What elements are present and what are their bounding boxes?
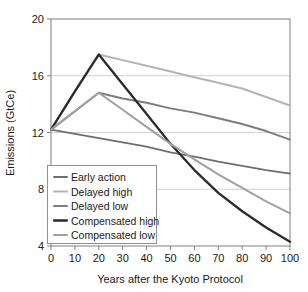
emissions-line-chart: 48121620 0102030405060708090100 Emission… (0, 0, 308, 292)
x-tick-label: 80 (236, 252, 248, 264)
legend-label-delayed-low: Delayed low (71, 200, 129, 212)
x-tick-label: 70 (212, 252, 224, 264)
chart-figure: 48121620 0102030405060708090100 Emission… (0, 0, 308, 292)
x-tick-label: 20 (93, 252, 105, 264)
chart-background (0, 0, 308, 292)
x-tick-label: 0 (48, 252, 54, 264)
y-tick-label: 20 (32, 13, 44, 25)
x-tick-label: 50 (164, 252, 176, 264)
legend-label-compensated-high: Compensated high (71, 215, 159, 227)
x-tick-label: 40 (140, 252, 152, 264)
y-tick-label: 8 (38, 183, 44, 195)
x-tick-label: 60 (188, 252, 200, 264)
legend-label-early-action: Early action (71, 171, 126, 183)
x-tick-label: 30 (117, 252, 129, 264)
legend-label-delayed-high: Delayed high (71, 186, 132, 198)
x-axis-label: Years after the Kyoto Protocol (97, 273, 243, 285)
y-tick-label: 12 (32, 127, 44, 139)
chart-legend: Early actionDelayed highDelayed lowCompe… (48, 166, 160, 244)
x-tick-label: 100 (281, 252, 299, 264)
y-tick-label: 16 (32, 70, 44, 82)
x-tick-label: 90 (260, 252, 272, 264)
y-axis-label: Emissions (GtCe) (4, 90, 16, 176)
y-tick-label: 4 (38, 240, 44, 252)
legend-label-compensated-low: Compensated low (71, 229, 155, 241)
x-tick-label: 10 (69, 252, 81, 264)
